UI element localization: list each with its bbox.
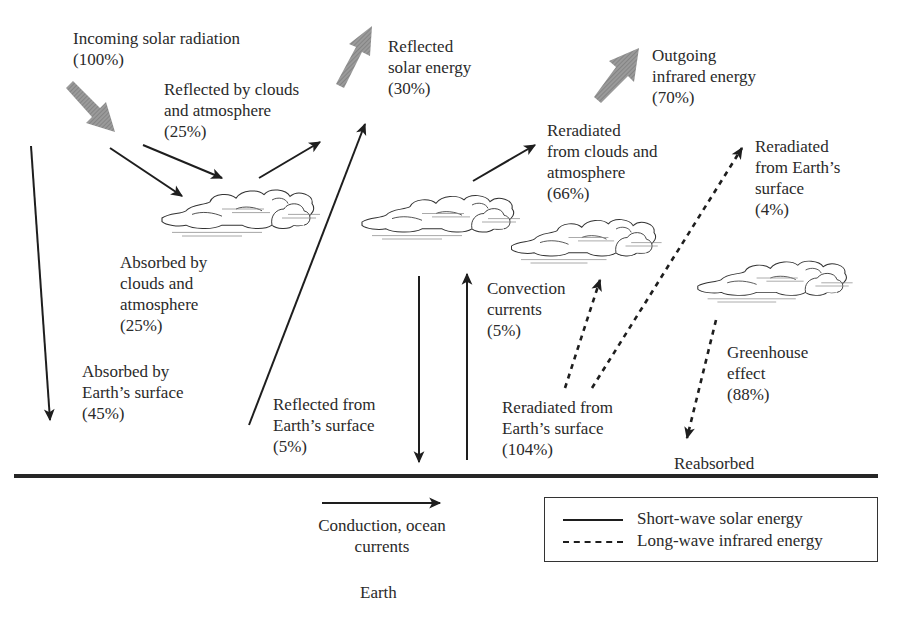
label-line: (66%) (547, 183, 657, 204)
label-line: Earth’s surface (273, 415, 375, 436)
label-absorbed-clouds: Absorbed by clouds and atmosphere (25%) (120, 252, 207, 336)
label-line: Reradiated (755, 136, 840, 157)
label-convection: Convection currents (5%) (487, 278, 565, 341)
label-line: (5%) (273, 436, 375, 457)
to-cloud-arrow-2 (143, 145, 222, 178)
label-line: atmosphere (120, 294, 207, 315)
label-line: infrared energy (652, 66, 756, 87)
reradiated-clouds-arrow (473, 145, 535, 181)
label-line: effect (727, 363, 808, 384)
label-line: Conduction, ocean (302, 515, 462, 536)
label-conduction: Conduction, ocean currents (302, 515, 462, 557)
solid-line-swatch-icon (563, 519, 623, 521)
cloud-left (162, 190, 320, 236)
label-reradiated-surface-104: Reradiated from Earth’s surface (104%) (502, 397, 613, 460)
label-line: (100%) (73, 49, 240, 70)
label-line: Incoming solar radiation (73, 28, 240, 49)
label-reflected-clouds: Reflected by clouds and atmosphere (25%) (164, 79, 299, 142)
label-earth: Earth (360, 582, 397, 603)
label-line: (104%) (502, 439, 613, 460)
to-cloud-arrow-1 (110, 148, 182, 196)
cloud-right (698, 261, 853, 302)
legend-label: Short-wave solar energy (637, 508, 803, 529)
absorbed-surface-arrow (31, 146, 50, 420)
label-line: (25%) (164, 121, 299, 142)
dashed-line-swatch-icon (563, 541, 623, 543)
label-line: Reradiated (547, 120, 657, 141)
label-line: Reradiated from (502, 397, 613, 418)
label-line: (25%) (120, 315, 207, 336)
label-line: (30%) (388, 78, 471, 99)
label-line: Earth’s surface (82, 382, 183, 403)
label-line: Reflected (388, 36, 471, 57)
legend: Short-wave solar energy Long-wave infrar… (544, 497, 878, 562)
label-line: currents (302, 536, 462, 557)
label-line: atmosphere (547, 162, 657, 183)
label-line: Reflected from (273, 394, 375, 415)
label-line: Greenhouse (727, 342, 808, 363)
label-line: Earth (360, 582, 397, 603)
label-line: from Earth’s (755, 157, 840, 178)
label-line: Outgoing (652, 45, 756, 66)
label-line: from clouds and (547, 141, 657, 162)
reflected-solar-wide-arrow (336, 26, 372, 88)
label-line: (5%) (487, 320, 565, 341)
label-line: currents (487, 299, 565, 320)
ground-line (14, 474, 878, 478)
label-line: Reabsorbed (674, 453, 754, 474)
label-outgoing-infrared: Outgoing infrared energy (70%) (652, 45, 756, 108)
label-reflected-solar: Reflected solar energy (30%) (388, 36, 471, 99)
label-line: (88%) (727, 384, 808, 405)
label-line: (4%) (755, 199, 840, 220)
reflected-clouds-arrow (259, 142, 320, 178)
label-absorbed-surface: Absorbed by Earth’s surface (45%) (82, 361, 183, 424)
label-greenhouse: Greenhouse effect (88%) (727, 342, 808, 405)
label-line: Convection (487, 278, 565, 299)
label-line: Absorbed by (120, 252, 207, 273)
label-reradiated-clouds: Reradiated from clouds and atmosphere (6… (547, 120, 657, 204)
label-line: and atmosphere (164, 100, 299, 121)
label-reabsorbed: Reabsorbed (674, 453, 754, 474)
label-line: Absorbed by (82, 361, 183, 382)
reradiated-convection-dashed-arrow (565, 280, 600, 388)
label-line: (45%) (82, 403, 183, 424)
label-reradiated-surface-4: Reradiated from Earth’s surface (4%) (755, 136, 840, 220)
cloud-center (362, 196, 520, 239)
label-line: surface (755, 178, 840, 199)
label-line: solar energy (388, 57, 471, 78)
reflected-surface-arrow (249, 124, 365, 425)
outgoing-infrared-wide-arrow (594, 48, 639, 103)
cloud-center-right (512, 220, 662, 263)
label-line: clouds and (120, 273, 207, 294)
label-line: Earth’s surface (502, 418, 613, 439)
label-incoming-solar: Incoming solar radiation (100%) (73, 28, 240, 70)
label-line: (70%) (652, 87, 756, 108)
legend-label: Long-wave infrared energy (637, 530, 823, 551)
label-line: Reflected by clouds (164, 79, 299, 100)
incoming-solar-wide-arrow (66, 81, 115, 132)
label-reflected-surface: Reflected from Earth’s surface (5%) (273, 394, 375, 457)
greenhouse-dashed-arrow (687, 320, 716, 438)
